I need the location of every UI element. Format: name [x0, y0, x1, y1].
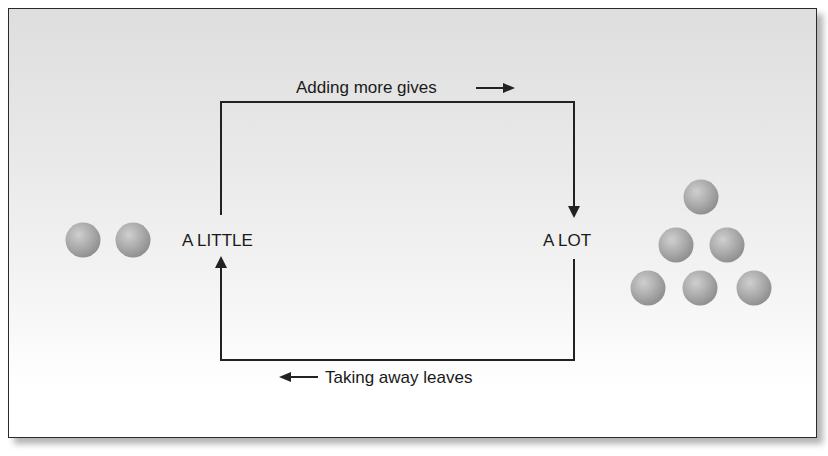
top-path	[221, 102, 574, 215]
ball	[710, 228, 745, 263]
top-label: Adding more gives	[296, 79, 437, 96]
ball	[66, 223, 101, 258]
left-arrow-icon	[279, 372, 318, 382]
a-little-label: A LITTLE	[182, 232, 253, 249]
bottom-path	[221, 259, 574, 360]
ball	[116, 223, 151, 258]
right-arrow-icon	[476, 83, 515, 93]
a-lot-label: A LOT	[543, 232, 591, 249]
ball	[737, 271, 772, 306]
bottom-label: Taking away leaves	[325, 369, 472, 386]
small-quantity-balls	[66, 223, 151, 258]
cycle-diagram	[0, 0, 828, 456]
arrowhead-up-icon	[215, 256, 227, 268]
ball	[659, 228, 694, 263]
arrowhead-down-icon	[568, 206, 580, 218]
ball	[631, 271, 666, 306]
ball	[684, 180, 719, 215]
ball	[683, 271, 718, 306]
large-quantity-balls	[631, 180, 772, 306]
